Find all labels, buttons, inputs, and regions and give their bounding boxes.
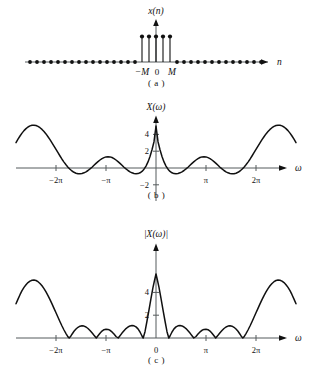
- panel-c-xtick--pi: −π: [101, 345, 111, 355]
- panel-a-stems: [140, 34, 172, 62]
- panel-c-xlabel: ω: [295, 333, 302, 343]
- panel-b-ylabel: X(ω): [146, 102, 166, 113]
- panel-b: X(ω) ω 4 2 −2 −2π −π: [0, 98, 313, 213]
- panel-b-xlabel: ω: [295, 163, 302, 173]
- panel-b-xtick--pi: −π: [101, 175, 111, 185]
- panel-b-xtick-pi: π: [204, 175, 209, 185]
- panel-a-y-arrow-icon: [153, 19, 159, 26]
- panel-c-ylabel: |X(ω)|: [144, 229, 168, 240]
- panel-b-ytick-2: 2: [145, 146, 149, 156]
- panel-b-xtick-2pi: 2π: [252, 175, 261, 185]
- panel-b-ytick-4: 4: [145, 129, 150, 139]
- panel-a-ylabel: x(n): [147, 6, 163, 17]
- panel-c-xtick--2pi: −2π: [49, 345, 63, 355]
- panel-c-xtick-pi: π: [204, 345, 209, 355]
- panel-a-xtick-0: 0: [155, 67, 160, 77]
- panel-c-plot: |X(ω)| ω 4 2 −2π −π 0 π: [0, 213, 313, 374]
- panel-a: x(n) n: [0, 0, 313, 98]
- panel-b-xtick--2pi: −2π: [49, 175, 63, 185]
- panel-b-y-arrow-icon: [153, 116, 159, 124]
- panel-c-x-arrow-icon: [279, 335, 287, 341]
- panel-a-xtick-M: M: [167, 67, 177, 77]
- panel-b-ytick--2: −2: [140, 180, 149, 190]
- panel-b-caption: ( b ): [0, 190, 313, 200]
- panel-c-y-arrow-icon: [153, 244, 159, 252]
- panel-a-xlabel: n: [277, 57, 282, 67]
- figure-container: x(n) n: [0, 0, 313, 374]
- panel-c: |X(ω)| ω 4 2 −2π −π 0 π: [0, 213, 313, 374]
- panel-a-xtick--M: −M: [135, 67, 150, 77]
- panel-c-caption: ( c ): [0, 355, 313, 365]
- panel-c-ytick-4: 4: [145, 287, 150, 297]
- panel-b-x-arrow-icon: [279, 165, 287, 171]
- panel-c-xtick-0: 0: [154, 345, 158, 355]
- panel-c-xtick-2pi: 2π: [252, 345, 261, 355]
- panel-a-caption: ( a ): [0, 78, 313, 88]
